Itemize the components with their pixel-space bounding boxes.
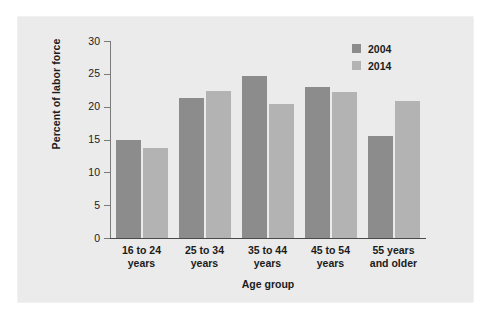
- x-axis-title: Age group: [110, 278, 426, 290]
- legend-label: 2004: [368, 43, 391, 55]
- legend-item-2014: 2014: [352, 57, 428, 74]
- figure-root: 051015202530 Percent of labor force 16 t…: [0, 0, 490, 319]
- bar-2014-3: [269, 104, 294, 238]
- legend: 20042014: [352, 40, 428, 74]
- category-label-line: 55 years: [356, 244, 432, 257]
- y-axis-tick-label: 25: [56, 68, 100, 79]
- bar-2014-5: [395, 101, 420, 238]
- legend-swatch-icon: [352, 44, 361, 53]
- y-axis-tick-label: 20: [56, 101, 100, 112]
- y-axis-tick-label: 0: [56, 233, 100, 244]
- y-axis-tick-label: 10: [56, 167, 100, 178]
- y-axis-tick-label: 5: [56, 200, 100, 211]
- bar-2014-1: [143, 148, 168, 238]
- y-axis-tick-label: 15: [56, 134, 100, 145]
- x-axis-category-label: 55 yearsand older: [356, 244, 432, 269]
- bar-2004-5: [368, 136, 393, 238]
- y-axis-title: Percent of labor force: [50, 14, 62, 174]
- y-axis-tick-mark: [104, 238, 110, 239]
- legend-label: 2014: [368, 60, 391, 72]
- bar-2004-3: [242, 76, 267, 238]
- legend-item-2004: 2004: [352, 40, 428, 57]
- bar-2004-4: [305, 87, 330, 238]
- x-axis-line: [110, 238, 426, 239]
- bar-2004-2: [179, 98, 204, 238]
- bar-2014-2: [206, 91, 231, 238]
- category-label-line: and older: [356, 257, 432, 270]
- bar-2004-1: [116, 140, 141, 239]
- legend-swatch-icon: [352, 61, 361, 70]
- y-axis-tick-label: 30: [56, 36, 100, 47]
- bar-2014-4: [332, 92, 357, 238]
